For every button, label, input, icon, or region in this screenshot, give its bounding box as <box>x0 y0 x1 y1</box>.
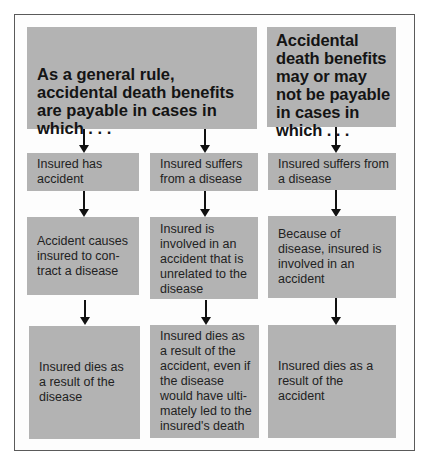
arrow-down-icon <box>335 298 337 323</box>
arrow-down-icon <box>84 300 86 323</box>
col3-step3: Insured dies as a result of the accident <box>268 325 396 438</box>
arrow-down-icon <box>204 191 206 215</box>
arrow-down-icon <box>205 300 207 323</box>
arrow-down-icon <box>83 191 85 215</box>
col2-step1: Insured suffers from a disease <box>150 153 258 191</box>
col2-step3: Insured dies as a result of the accident… <box>150 325 259 438</box>
arrow-down-icon <box>204 129 206 151</box>
arrow-down-icon <box>335 127 337 151</box>
header-may-or-may-not: Accidental death benefits may or may not… <box>267 27 396 127</box>
header-may-or-may-not-text: Accidental death benefits may or may not… <box>276 31 392 139</box>
arrow-down-icon <box>83 129 85 151</box>
col2-step2: Insured is involved in an accident that … <box>150 217 258 299</box>
col1-step3: Insured dies as a result of the disease <box>29 326 140 439</box>
header-general-rule-text: As a general rule, accidental death bene… <box>37 65 251 137</box>
col1-step2: Accident causes insured to con-tract a d… <box>27 217 139 295</box>
col1-step1: Insured has accident <box>27 153 139 191</box>
header-general-rule: As a general rule, accidental death bene… <box>27 27 257 129</box>
col3-step2: Because of disease, insured is involved … <box>268 216 396 298</box>
arrow-down-icon <box>335 190 337 215</box>
col3-step1: Insured suffers from a disease <box>268 153 396 190</box>
